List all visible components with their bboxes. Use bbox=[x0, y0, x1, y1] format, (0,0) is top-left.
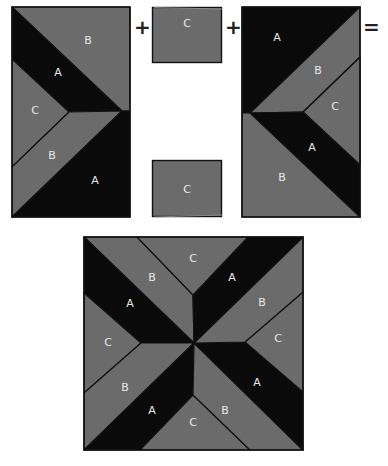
center-square-top: C bbox=[152, 7, 223, 64]
label-c: C bbox=[189, 416, 197, 429]
label-b: B bbox=[84, 34, 92, 47]
label-a: A bbox=[253, 376, 261, 389]
label-b: B bbox=[48, 149, 56, 162]
equals-operator: = bbox=[363, 17, 380, 37]
c-square-top: C bbox=[152, 7, 223, 64]
right-unit-diagram: A B C A B bbox=[242, 7, 360, 217]
label-b: B bbox=[148, 271, 156, 284]
label-c: C bbox=[104, 336, 112, 349]
plus-operator: + bbox=[225, 17, 242, 37]
label-a: A bbox=[54, 66, 62, 79]
piece-c bbox=[153, 8, 222, 63]
left-unit-diagram: B A C B A bbox=[12, 7, 130, 217]
label-b: B bbox=[314, 64, 322, 77]
plus-operator: + bbox=[134, 17, 151, 37]
c-square-bottom: C bbox=[152, 160, 223, 218]
label-a: A bbox=[91, 174, 99, 187]
finished-quilt-block: C B A A B C C B A A C B bbox=[84, 237, 303, 450]
label-b: B bbox=[258, 296, 266, 309]
label-b: B bbox=[278, 171, 286, 184]
label-b: B bbox=[121, 381, 129, 394]
label-a: A bbox=[273, 31, 281, 44]
label-c: C bbox=[183, 17, 191, 30]
label-c: C bbox=[331, 100, 339, 113]
left-block-unit: B A C B A bbox=[12, 7, 130, 217]
finished-block-diagram: C B A A B C C B A A C B bbox=[84, 237, 303, 450]
right-block-unit: A B C A B bbox=[242, 7, 360, 217]
label-b: B bbox=[221, 404, 229, 417]
label-c: C bbox=[274, 332, 282, 345]
center-square-bottom: C bbox=[152, 160, 223, 218]
label-c: C bbox=[183, 183, 191, 196]
label-a: A bbox=[308, 141, 316, 154]
label-c: C bbox=[31, 104, 39, 117]
label-c: C bbox=[189, 252, 197, 265]
label-a: A bbox=[148, 404, 156, 417]
label-a: A bbox=[126, 297, 134, 310]
label-a: A bbox=[228, 271, 236, 284]
